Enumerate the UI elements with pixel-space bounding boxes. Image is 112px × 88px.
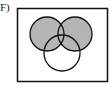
venn-diagram (0, 0, 112, 88)
